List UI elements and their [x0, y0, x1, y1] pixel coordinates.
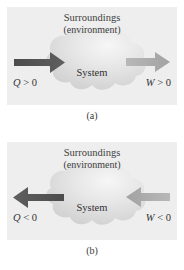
heat-label-b: Q < 0: [13, 212, 37, 224]
work-label-b: W < 0: [146, 212, 171, 224]
thermodynamics-figure: Surroundings (environment) System Q > 0 …: [0, 0, 184, 270]
panel-block-a: Surroundings (environment) System Q > 0 …: [0, 0, 184, 135]
work-value-a: 0: [166, 77, 171, 88]
work-symbol-b: W: [146, 212, 155, 223]
surroundings-label-b: Surroundings (environment): [7, 147, 177, 170]
heat-value-a: 0: [32, 77, 37, 88]
heat-symbol-b: Q: [13, 212, 21, 223]
surroundings-line2-b: (environment): [7, 159, 177, 170]
panel-b: Surroundings (environment) System Q < 0 …: [7, 142, 177, 240]
heat-symbol-a: Q: [13, 77, 21, 88]
surroundings-line2-a: (environment): [7, 24, 177, 35]
surroundings-line1-b: Surroundings: [64, 147, 121, 158]
work-value-b: 0: [166, 212, 171, 223]
work-label-a: W > 0: [146, 77, 171, 89]
caption-a: (a): [0, 110, 184, 121]
system-cloud-shape: [46, 162, 145, 224]
work-symbol-a: W: [146, 77, 155, 88]
surroundings-label-a: Surroundings (environment): [7, 12, 177, 35]
caption-b: (b): [0, 245, 184, 256]
heat-value-b: 0: [32, 212, 37, 223]
heat-label-a: Q > 0: [13, 77, 37, 89]
panel-block-b: Surroundings (environment) System Q < 0 …: [0, 135, 184, 270]
surroundings-line1-a: Surroundings: [64, 12, 121, 23]
panel-a: Surroundings (environment) System Q > 0 …: [7, 7, 177, 105]
